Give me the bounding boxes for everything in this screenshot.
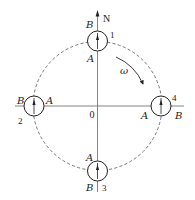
pole-label-bottom: B — [85, 182, 93, 193]
compass-position-2: B A 2 — [16, 95, 53, 126]
origin-label: 0 — [90, 109, 95, 120]
north-label: N — [103, 13, 110, 24]
position-number: 2 — [18, 116, 23, 126]
pole-label-right: A — [45, 95, 53, 106]
compass-position-3: A B 3 — [85, 152, 108, 193]
compass-rotation-diagram: N 0 ω B A 1 B A 2 A B 3 A B 4 — [0, 0, 195, 200]
pole-label-top: A — [85, 152, 93, 163]
pole-label-top: B — [85, 19, 93, 30]
pole-label-left: B — [16, 95, 24, 106]
position-number: 3 — [102, 183, 107, 193]
north-arrow-icon — [96, 10, 100, 17]
pole-label-left: A — [140, 110, 148, 121]
omega-label: ω — [120, 65, 128, 76]
position-number: 1 — [110, 30, 115, 40]
compass-position-1: B A 1 — [85, 19, 115, 64]
pole-label-right: B — [174, 110, 182, 121]
pole-label-bottom: A — [86, 53, 94, 64]
position-number: 4 — [172, 93, 177, 103]
